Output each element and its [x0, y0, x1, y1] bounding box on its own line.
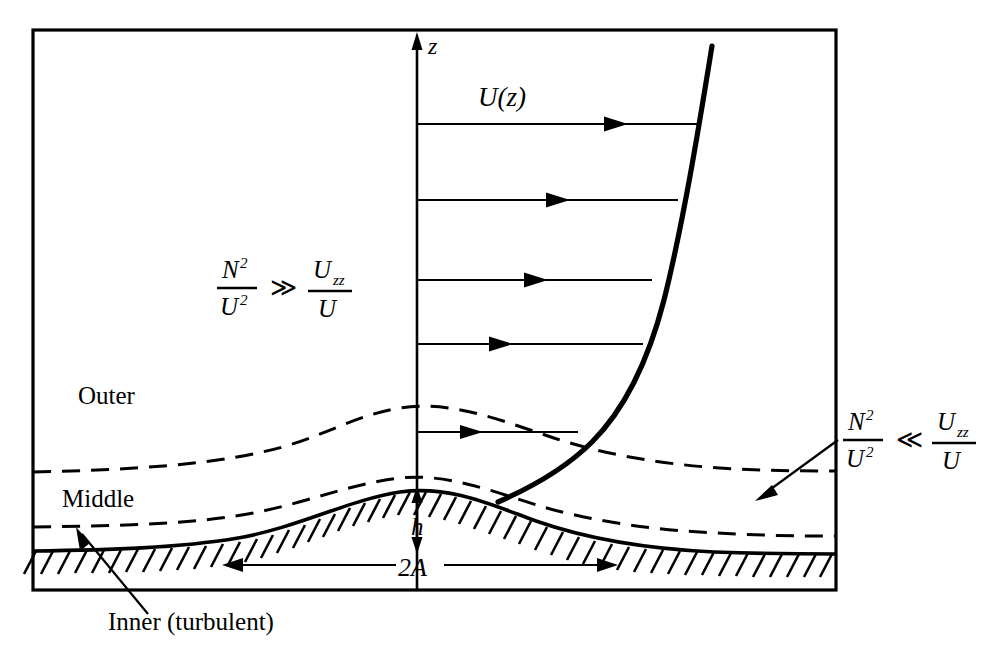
- region-label-outer: Outer: [78, 382, 136, 409]
- eq-outer-relation: ≫: [270, 273, 297, 302]
- equation-outer: N 2 U 2 ≫ U zz U: [217, 255, 352, 322]
- inner-label-pointer: [76, 527, 148, 614]
- eq-inner-num-sup: 2: [866, 407, 874, 423]
- z-axis-arrowhead: [412, 32, 423, 50]
- velocity-profile-curve: [498, 46, 712, 502]
- velocity-profile-label: U(z): [478, 82, 526, 112]
- eq-outer-num: N: [221, 256, 240, 283]
- eq-outer-rnum-sub: zz: [332, 272, 345, 288]
- hill-height-label: h: [411, 513, 424, 540]
- velocity-arrow-group: [417, 117, 700, 440]
- eq-outer-num-sup: 2: [240, 255, 248, 271]
- figure-root: z U(z): [0, 0, 981, 652]
- eq-outer-rnum: U: [313, 256, 333, 283]
- eq-outer-den: U: [220, 293, 240, 320]
- eq-outer-rden: U: [318, 295, 338, 322]
- hill-width-label: 2A: [398, 553, 427, 582]
- inner-region-pointer: [755, 440, 838, 501]
- eq-inner-den: U: [846, 445, 866, 472]
- velocity-arrow-2: [417, 193, 678, 208]
- terrain-hatching: [24, 492, 832, 577]
- boundary-layer-diagram: z U(z): [0, 0, 981, 652]
- eq-inner-relation: ≪: [896, 425, 923, 454]
- equation-inner: N 2 U 2 ≪ U zz U: [843, 407, 976, 474]
- eq-inner-rnum-sub: zz: [956, 424, 969, 440]
- velocity-arrow-1: [417, 117, 700, 132]
- width-arrow-left: [222, 558, 243, 572]
- z-axis-label: z: [427, 33, 438, 59]
- eq-inner-rnum: U: [937, 408, 957, 435]
- eq-inner-num: N: [847, 408, 866, 435]
- outer-middle-interface: [33, 406, 836, 472]
- width-arrow-right: [597, 558, 618, 572]
- eq-inner-den-sup: 2: [866, 444, 874, 460]
- eq-inner-rden: U: [942, 447, 962, 474]
- region-label-inner: Inner (turbulent): [108, 608, 274, 636]
- h-arrow-up: [412, 486, 423, 503]
- eq-outer-den-sup: 2: [240, 292, 248, 308]
- region-label-middle: Middle: [62, 485, 134, 512]
- velocity-arrow-4: [417, 337, 643, 352]
- velocity-arrow-3: [417, 273, 652, 288]
